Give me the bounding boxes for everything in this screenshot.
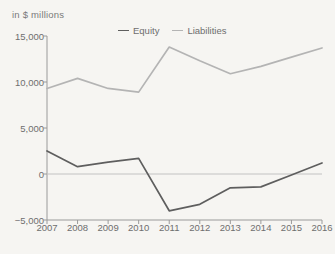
chart-series-group bbox=[47, 47, 322, 211]
chart-container: in $ millions Equity Liabilities 15,0001… bbox=[0, 0, 335, 254]
chart-plot-area bbox=[0, 0, 335, 254]
series-line-equity bbox=[47, 151, 322, 211]
series-line-liabilities bbox=[47, 47, 322, 92]
chart-axes bbox=[43, 36, 322, 224]
